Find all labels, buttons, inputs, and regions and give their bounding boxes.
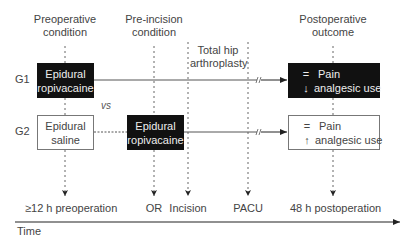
header-postoperative: Postoperative outcome [288, 13, 378, 39]
header-preoperative: Preoperative condition [24, 13, 106, 39]
timeline-point-pacu: PACU [230, 202, 266, 214]
g1-preoperative-box: Epidural ropivacaine [37, 63, 94, 98]
header-pre-incision: Pre-incision condition [113, 13, 195, 39]
equal-icon: = [300, 67, 312, 81]
arrow-up-icon: ↑ [301, 133, 313, 147]
timeline-point-or: OR [140, 202, 168, 214]
g1-pain-line: = Pain [300, 67, 340, 81]
timeline-point-postoperation: 48 h postoperation [290, 202, 376, 214]
g2-outcome-box: = Pain ↑ analgesic use [288, 115, 380, 150]
header-surgery: Total hip arthroplasty [190, 44, 246, 70]
arrow-down-icon: ↓ [300, 81, 312, 95]
comparison-label: vs [101, 100, 111, 111]
g2-pre-incision-box: Epidural ropivacaine [127, 115, 184, 150]
g2-pain-line: = Pain [301, 119, 341, 133]
timeline-point-incision: Incision [168, 202, 208, 214]
g1-analgesic-line: ↓ analgesic use [300, 81, 381, 95]
timeline-point-preoperation: ≥12 h preoperation [25, 202, 105, 214]
g2-preoperative-box: Epidural saline [37, 115, 94, 150]
group-label-g2: G2 [15, 125, 30, 137]
g1-outcome-box: = Pain ↓ analgesic use [288, 63, 380, 98]
group-label-g1: G1 [15, 73, 30, 85]
time-axis-label: Time [17, 225, 41, 235]
equal-icon: = [301, 119, 313, 133]
g2-analgesic-line: ↑ analgesic use [301, 133, 382, 147]
